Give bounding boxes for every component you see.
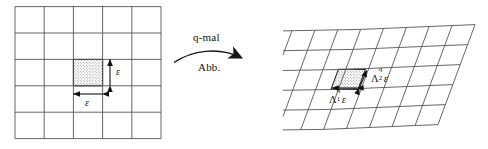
parallelogram-grid-hline bbox=[283, 29, 361, 31]
parallelogram-grid-hline bbox=[283, 49, 353, 50]
map-label-below: Abb. bbox=[198, 62, 221, 73]
parallelogram-grid-vline bbox=[438, 25, 475, 125]
parallelogram-grid-vline bbox=[415, 26, 452, 126]
lambda2-indices: q2 bbox=[379, 71, 384, 82]
lambda2-label: Λq2ε bbox=[371, 71, 388, 84]
epsilon-width-label: ε bbox=[85, 98, 89, 108]
lambda1-superscript: q bbox=[337, 87, 341, 94]
parallelogram-grid-hline bbox=[346, 65, 460, 70]
parallelogram-grid-hline bbox=[331, 105, 445, 110]
lambda2-superscript: q bbox=[379, 66, 383, 73]
parallelogram-grid-hline bbox=[283, 89, 338, 90]
figure-canvas: ε ε q-mal Abb. Λq1ε Λq2ε bbox=[0, 0, 488, 149]
parallelogram-grid-hline bbox=[361, 25, 475, 30]
lambda2-epsilon: ε bbox=[384, 73, 388, 84]
epsilon-height-label: ε bbox=[116, 67, 120, 77]
lambda2-base: Λ bbox=[371, 73, 379, 84]
lambda2-subscript: 2 bbox=[379, 75, 383, 82]
parallelogram-grid-hline bbox=[283, 69, 346, 70]
figure-vector bbox=[0, 0, 488, 149]
square-grid-highlighted-cell bbox=[73, 59, 102, 85]
lambda1-subscript: 1 bbox=[337, 96, 341, 103]
lambda1-epsilon: ε bbox=[342, 94, 346, 105]
parallelogram-grid-hline bbox=[283, 129, 324, 130]
parallelogram-grid-hline bbox=[353, 45, 467, 50]
lambda1-indices: q1 bbox=[337, 92, 342, 103]
square-grid-group bbox=[15, 7, 161, 139]
lambda1-base: Λ bbox=[329, 94, 337, 105]
parallelogram-grid-vline bbox=[301, 30, 338, 130]
lambda1-label: Λq1ε bbox=[329, 92, 346, 105]
parallelogram-grid-hline bbox=[324, 125, 438, 130]
parallelogram-grid-vline bbox=[392, 26, 429, 126]
parallelogram-grid-hline bbox=[283, 109, 331, 110]
map-label-above: q-mal bbox=[193, 32, 220, 43]
parallelogram-grid-vline bbox=[283, 31, 292, 55]
